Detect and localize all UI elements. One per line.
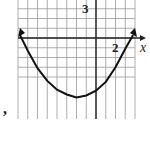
grid [18,0,135,119]
y-tick-label: 3 [82,1,89,17]
parabola-chart [0,0,150,147]
stray-comma: , [3,100,7,118]
x-axis-label: x [140,40,146,56]
x-tick-label: 2 [112,40,119,56]
left-arrow-icon [18,28,25,37]
